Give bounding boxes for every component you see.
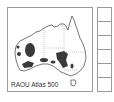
sidebar-cell xyxy=(98,78,111,91)
distribution-patch-nw xyxy=(17,46,20,49)
distribution-patch-wa-central xyxy=(25,43,35,57)
sidebar-cell xyxy=(98,36,111,50)
sidebar-cell xyxy=(98,8,111,22)
distribution-map: RAOU Atlas 500 xyxy=(7,7,93,92)
sidebar-cell xyxy=(98,50,111,64)
sidebar-cell xyxy=(98,22,111,36)
tasmania-outline xyxy=(71,80,76,86)
distribution-patch-sa-east xyxy=(51,61,56,64)
australia-map xyxy=(8,8,92,91)
distribution-patch-nsw xyxy=(71,64,74,69)
distribution-patch-wa-west xyxy=(17,52,21,56)
distribution-patch-sa-west xyxy=(40,58,48,62)
map-label: RAOU Atlas 500 xyxy=(11,81,58,88)
sidebar-cell xyxy=(98,64,111,78)
sidebar-panel xyxy=(97,7,112,92)
